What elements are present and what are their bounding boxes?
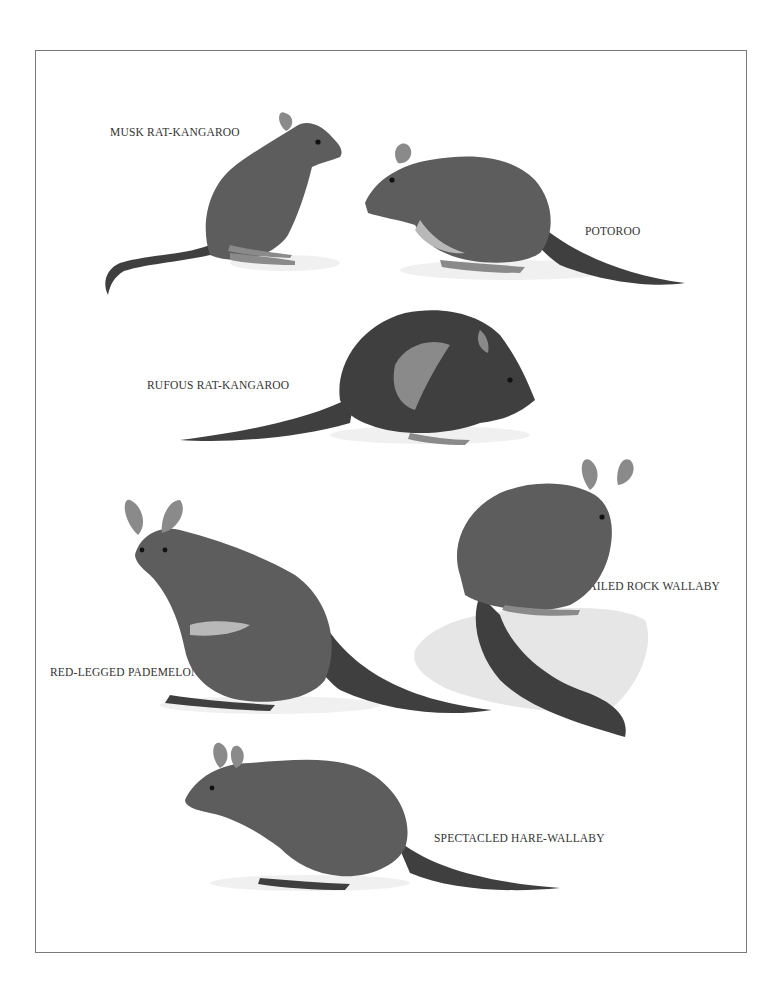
illustration-potoroo xyxy=(360,135,690,285)
illustration-spectacled-hare-wallaby xyxy=(180,738,565,893)
illustration-rufous-rat-kangaroo xyxy=(180,305,550,450)
illustration-musk-rat-kangaroo xyxy=(100,105,345,300)
illustration-red-legged-pademelon xyxy=(120,495,495,720)
